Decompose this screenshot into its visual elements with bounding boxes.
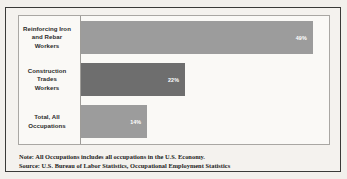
bar-value-label: 49%: [296, 35, 307, 41]
figure-outer-frame: Reinforcing Iron and Rebar Workers 49% C…: [5, 7, 341, 172]
bar-value-label: 22%: [168, 77, 179, 83]
footnote-note: Note: All Occupations includes all occup…: [19, 152, 329, 161]
bar-row: Construction Trades Workers 22%: [19, 63, 329, 96]
category-label-line: Reinforcing Iron: [23, 25, 71, 32]
bar-total-all-occupations: 14%: [81, 105, 147, 138]
bar-reinforcing-iron-and-rebar-workers: 49%: [81, 21, 313, 54]
bar-row: Total, All Occupations 14%: [19, 105, 329, 138]
category-label-line: Total, All: [34, 113, 60, 120]
bar-construction-trades-workers: 22%: [81, 63, 185, 96]
category-label-construction-trades-workers: Construction Trades Workers: [19, 63, 77, 96]
category-label-line: Occupations: [28, 122, 65, 129]
category-label-line: Workers: [35, 42, 60, 49]
category-label-total-all-occupations: Total, All Occupations: [19, 105, 77, 138]
category-label-line: Trades: [37, 75, 57, 82]
category-label-line: Workers: [35, 84, 60, 91]
category-label-line: Construction: [28, 67, 67, 74]
bar-chart-plot-area: Reinforcing Iron and Rebar Workers 49% C…: [18, 15, 330, 145]
bar-row: Reinforcing Iron and Rebar Workers 49%: [19, 21, 329, 54]
footnote-source: Source: U.S. Bureau of Labor Statistics,…: [19, 161, 329, 170]
bar-value-label: 14%: [130, 119, 141, 125]
chart-footnotes: Note: All Occupations includes all occup…: [19, 152, 329, 171]
category-label-line: and Rebar: [32, 33, 62, 40]
chart-figure: Reinforcing Iron and Rebar Workers 49% C…: [0, 0, 347, 179]
category-label-reinforcing-iron-and-rebar-workers: Reinforcing Iron and Rebar Workers: [19, 21, 77, 54]
